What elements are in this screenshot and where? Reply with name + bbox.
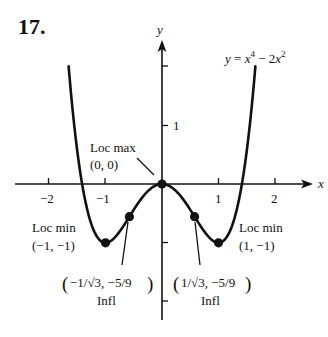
loc-min-left-title: Loc min [32, 220, 76, 235]
x-axis-label: x [317, 176, 324, 191]
loc-max-pointer [137, 158, 154, 175]
loc-max-annotation: Loc max (0, 0) [90, 140, 154, 175]
loc-min-left-point [101, 238, 110, 247]
loc-max-point [157, 179, 166, 188]
loc-min-right-annotation: Loc min (1, −1) [239, 220, 283, 253]
loc-max-title: Loc max [90, 140, 136, 155]
problem-number: 17. [18, 14, 46, 39]
infl-left-point [125, 212, 134, 221]
loc-max-coords: (0, 0) [90, 157, 118, 172]
infl-right-point [190, 212, 199, 221]
y-axis-label: y [155, 22, 163, 37]
x-axis: x −2 −1 1 2 [15, 176, 324, 206]
infl-right-pointer [195, 222, 200, 265]
loc-min-right-point [214, 238, 223, 247]
paren-close: ) [147, 273, 153, 295]
infl-left-title: Infl [97, 293, 116, 308]
x-tick-label: −1 [96, 191, 110, 206]
infl-right-coords: 1/√3, −5/9 [181, 275, 235, 290]
loc-min-right-coords: (1, −1) [239, 238, 275, 253]
y-tick-label: 1 [173, 118, 180, 133]
infl-right-title: Infl [201, 293, 220, 308]
x-tick-label: −2 [40, 191, 54, 206]
paren-open: ( [173, 273, 179, 295]
loc-min-left-annotation: Loc min (−1, −1) [32, 220, 76, 253]
paren-close: ) [245, 273, 251, 295]
infl-left-coords: −1/√3, −5/9 [70, 275, 132, 290]
infl-left-annotation: ( −1/√3, −5/9 ) Infl [62, 222, 153, 308]
loc-min-left-coords: (−1, −1) [32, 238, 75, 253]
x-tick-label: 1 [215, 191, 222, 206]
loc-min-right-title: Loc min [239, 220, 283, 235]
x-tick-label: 2 [271, 191, 278, 206]
equation-label: y = x4 − 2x2 [223, 49, 286, 66]
paren-open: ( [62, 273, 68, 295]
graph-figure: 17. x −2 −1 1 2 y 1 y = x4 − 2x2 [0, 0, 328, 337]
